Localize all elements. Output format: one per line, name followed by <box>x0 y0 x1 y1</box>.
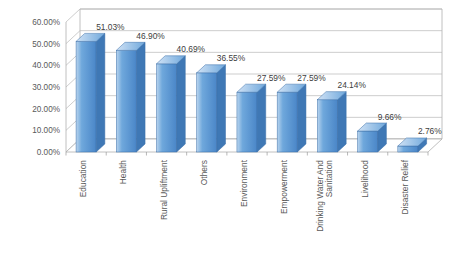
bar-side-face <box>217 65 226 152</box>
y-tick-label-5: 10.00% <box>32 126 60 135</box>
value-label-7: 9.66% <box>378 112 402 122</box>
y-tick-label-1: 50.00% <box>32 40 60 49</box>
y-tick-label-3: 30.00% <box>32 83 60 92</box>
bar-chart: 60.00%50.00%40.00%30.00%20.00%10.00%0.00… <box>0 0 454 259</box>
category-label-6: Drinking Water AndSanitation <box>315 160 335 232</box>
value-label-8: 2.76% <box>418 126 442 136</box>
bar-1[interactable] <box>116 42 145 152</box>
category-label-line: Empowerment <box>279 159 289 214</box>
bar-front-face <box>277 92 297 152</box>
bar-side-face <box>96 33 105 152</box>
value-label-0: 51.03% <box>96 22 125 32</box>
category-label-line: Livelihood <box>360 160 370 198</box>
category-label-line: Drinking Water And <box>315 160 325 232</box>
bar-front-face <box>157 64 177 152</box>
x-axis-labels: EducationHealthRural UpliftmentOthersEnv… <box>78 159 410 232</box>
y-tick-label-6: 0.00% <box>37 148 60 157</box>
bar-front-face <box>237 92 257 152</box>
bar-4[interactable] <box>237 84 266 152</box>
bar-front-face <box>116 50 136 152</box>
bar-front-face <box>358 131 378 152</box>
category-label-line: Rural Upliftment <box>159 159 169 220</box>
category-label-5: Empowerment <box>279 159 289 214</box>
category-label-2: Rural Upliftment <box>159 159 169 220</box>
bar-front-face <box>197 73 217 152</box>
value-label-3: 36.55% <box>217 53 246 63</box>
category-label-line: Environment <box>239 159 249 207</box>
bar-front-face <box>398 146 418 152</box>
category-label-7: Livelihood <box>360 160 370 198</box>
category-label-line: Sanitation <box>324 160 334 198</box>
bar-0[interactable] <box>76 33 105 152</box>
bar-side-face <box>257 84 266 152</box>
bar-3[interactable] <box>197 65 226 152</box>
value-label-1: 46.90% <box>136 31 165 41</box>
category-label-line: Education <box>78 160 88 198</box>
category-label-line: Health <box>118 160 128 185</box>
x-axis-ticks <box>66 152 428 156</box>
value-label-6: 24.14% <box>337 80 366 90</box>
y-axis-labels: 60.00%50.00%40.00%30.00%20.00%10.00%0.00… <box>32 18 60 157</box>
category-label-8: Disaster Relief <box>400 159 410 214</box>
category-label-line: Disaster Relief <box>400 159 410 214</box>
y-tick-label-0: 60.00% <box>32 18 60 27</box>
category-label-1: Health <box>118 160 128 185</box>
value-label-4: 27.59% <box>257 73 286 83</box>
category-label-3: Others <box>199 160 209 185</box>
value-label-2: 40.69% <box>177 44 206 54</box>
bar-6[interactable] <box>317 92 346 152</box>
bar-side-face <box>297 84 306 152</box>
bar-5[interactable] <box>277 84 306 152</box>
bar-side-face <box>177 56 186 152</box>
bars <box>76 33 427 152</box>
bar-side-face <box>136 42 145 152</box>
y-tick-label-2: 40.00% <box>32 61 60 70</box>
bar-7[interactable] <box>358 123 387 152</box>
bar-front-face <box>76 41 96 152</box>
category-label-4: Environment <box>239 159 249 207</box>
chart-canvas: 60.00%50.00%40.00%30.00%20.00%10.00%0.00… <box>0 0 454 259</box>
value-label-5: 27.59% <box>297 73 326 83</box>
bar-front-face <box>317 100 337 152</box>
category-label-0: Education <box>78 160 88 198</box>
y-tick-label-4: 20.00% <box>32 105 60 114</box>
bar-side-face <box>338 92 347 152</box>
category-label-line: Others <box>199 160 209 185</box>
value-labels: 51.03%46.90%40.69%36.55%27.59%27.59%24.1… <box>96 22 442 137</box>
bar-2[interactable] <box>157 56 186 152</box>
